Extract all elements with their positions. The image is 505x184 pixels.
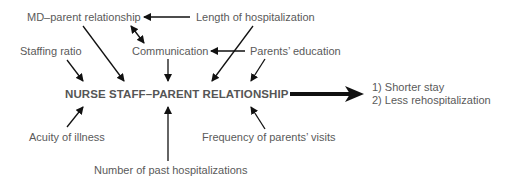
factor-frequency-of-visits: Frequency of parents’ visits [202, 131, 335, 144]
factor-staffing-ratio: Staffing ratio [20, 45, 82, 58]
factor-communication: Communication [132, 45, 208, 58]
arrow-education-to-center [251, 59, 265, 81]
factor-length-of-hospitalization: Length of hospitalization [196, 11, 315, 24]
arrow-md-to-center [83, 26, 124, 81]
factor-parents-education: Parents’ education [250, 45, 341, 58]
factor-md-parent-relationship: MD–parent relationship [27, 11, 141, 24]
factor-acuity-of-illness: Acuity of illness [29, 131, 105, 144]
arrow-acuity-to-center [67, 107, 83, 127]
center-node-title: NURSE STAFF–PARENT RELATIONSHIP [65, 87, 289, 101]
arrow-visits-to-center [251, 107, 265, 129]
arrow-staffing-to-center [67, 60, 83, 81]
outcome-1: 1) Shorter stay [372, 81, 444, 94]
arrow-length-to-center [212, 26, 253, 81]
outcome-2: 2) Less rehospitalization [372, 94, 491, 107]
arrow-md-communication [131, 26, 144, 43]
factor-past-hospitalizations: Number of past hospitalizations [94, 164, 247, 177]
